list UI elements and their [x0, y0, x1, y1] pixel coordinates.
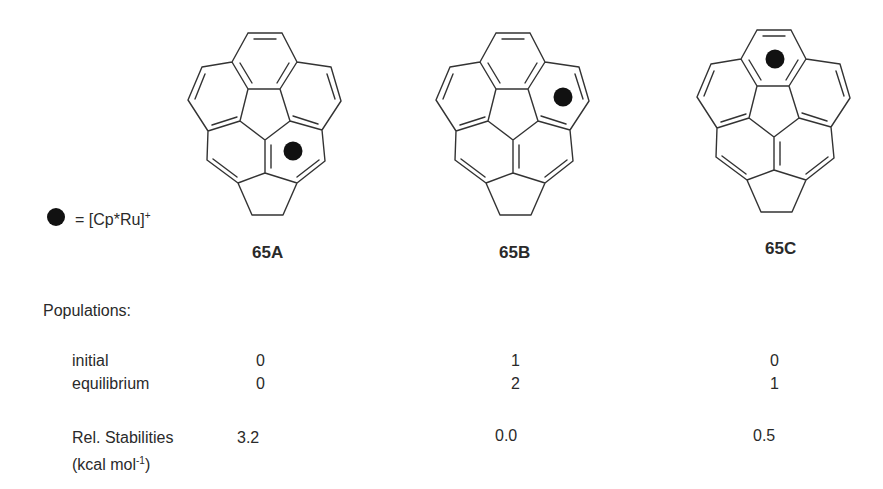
- stability-65B: 0.0: [495, 428, 517, 444]
- value-initial-65A: 0: [256, 353, 265, 369]
- molecule-diagrams: [0, 0, 883, 489]
- ru-marker-65C: [766, 50, 785, 69]
- row-label-initial: initial: [72, 353, 108, 369]
- molecule-65A: [188, 33, 341, 215]
- compound-label-65C: 65C: [765, 240, 796, 257]
- compound-label-65A: 65A: [252, 244, 283, 261]
- molecule-65C: [697, 30, 850, 212]
- molecule-65B: [436, 33, 589, 215]
- value-initial-65C: 0: [770, 353, 779, 369]
- ru-marker-65A: [284, 142, 303, 161]
- value-equilibrium-65C: 1: [770, 376, 779, 392]
- populations-heading: Populations:: [43, 303, 131, 319]
- stabilities-unit: (kcal mol-1): [72, 457, 150, 473]
- ru-legend-icon: [47, 208, 65, 226]
- legend-text: = [Cp*Ru]+: [75, 212, 151, 228]
- value-initial-65B: 1: [511, 353, 520, 369]
- ru-marker-65B: [554, 88, 573, 107]
- row-label-equilibrium: equilibrium: [72, 376, 149, 392]
- compound-label-65B: 65B: [499, 244, 530, 261]
- stabilities-label: Rel. Stabilities: [72, 430, 173, 446]
- stability-65A: 3.2: [237, 430, 259, 446]
- value-equilibrium-65A: 0: [256, 376, 265, 392]
- value-equilibrium-65B: 2: [511, 376, 520, 392]
- stability-65C: 0.5: [753, 428, 775, 444]
